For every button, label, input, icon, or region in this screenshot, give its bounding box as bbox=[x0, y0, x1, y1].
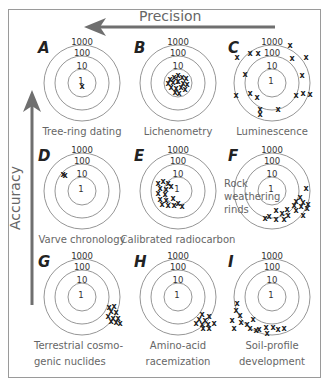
ring-label: 1000 bbox=[167, 145, 189, 155]
ring-label-center: 1 bbox=[268, 76, 273, 86]
ring-label: 100 bbox=[264, 48, 280, 58]
panel-letter: B bbox=[134, 39, 145, 57]
ring-label: 1000 bbox=[167, 251, 189, 261]
panel-caption: development bbox=[239, 356, 305, 367]
ring-label: 10 bbox=[173, 169, 184, 179]
ring-label-center: 1 bbox=[268, 290, 273, 300]
x-mark: x bbox=[273, 215, 279, 224]
x-mark: x bbox=[117, 319, 123, 328]
target-panel-c: 1000100101CxxxxxxxxxxxxxxxxxLuminescence bbox=[228, 37, 313, 137]
x-mark: x bbox=[300, 89, 306, 98]
x-mark: x bbox=[176, 89, 182, 98]
ring-label: 10 bbox=[267, 275, 278, 285]
x-mark: x bbox=[179, 202, 185, 211]
x-mark: x bbox=[247, 89, 253, 98]
x-mark: x bbox=[281, 215, 287, 224]
x-mark: x bbox=[62, 171, 68, 180]
panel-caption: Terrestrial cosmo- bbox=[33, 340, 124, 351]
x-mark: x bbox=[234, 53, 240, 62]
ring-label: 100 bbox=[170, 156, 186, 166]
ring-label: 100 bbox=[74, 156, 90, 166]
x-mark: x bbox=[300, 211, 306, 220]
x-mark: x bbox=[257, 110, 263, 119]
panel-caption: rinds bbox=[224, 204, 249, 215]
panel-letter: E bbox=[134, 147, 145, 165]
x-mark: x bbox=[303, 53, 309, 62]
x-mark: x bbox=[182, 85, 188, 94]
ring-label: 10 bbox=[173, 275, 184, 285]
target-panel-b: 1000100101BxxxxxxxxxxxxxxxxLichenometry bbox=[134, 37, 216, 137]
panel-caption: racemization bbox=[146, 356, 211, 367]
target-panel-g: 1000100101GxxxxxxxxxxTerrestrial cosmo-g… bbox=[33, 251, 124, 367]
ring-label: 100 bbox=[264, 156, 280, 166]
panel-letter: D bbox=[38, 147, 50, 165]
x-mark: x bbox=[281, 324, 287, 333]
x-mark: x bbox=[255, 49, 261, 58]
accuracy-label: Accuracy bbox=[7, 166, 23, 230]
x-mark: x bbox=[242, 70, 248, 79]
x-mark: x bbox=[299, 71, 305, 80]
ring-label: 1000 bbox=[261, 37, 283, 47]
accuracy-arrow-icon bbox=[23, 90, 41, 305]
ring-label: 100 bbox=[74, 262, 90, 272]
x-mark: x bbox=[275, 105, 281, 114]
x-mark: x bbox=[287, 41, 293, 50]
ring-label: 100 bbox=[170, 262, 186, 272]
x-mark: x bbox=[247, 49, 253, 58]
panel-letter: A bbox=[37, 39, 50, 57]
ring-label: 10 bbox=[77, 169, 88, 179]
ring-label: 1000 bbox=[261, 251, 283, 261]
ring-label-center: 1 bbox=[174, 184, 179, 194]
panel-caption: Rock bbox=[224, 178, 248, 189]
x-mark: x bbox=[231, 324, 237, 333]
x-mark: x bbox=[303, 184, 309, 193]
x-mark: x bbox=[307, 90, 313, 99]
ring-label: 10 bbox=[267, 169, 278, 179]
panel-caption: Soil-profile bbox=[245, 340, 298, 351]
target-panel-a: 1000100101AxTree-ring dating bbox=[37, 37, 122, 137]
panel-caption: Amino-acid bbox=[150, 340, 206, 351]
x-mark: x bbox=[250, 315, 256, 324]
panel-letter: F bbox=[228, 147, 239, 165]
panel-letter: G bbox=[38, 253, 50, 271]
x-mark: x bbox=[264, 329, 270, 338]
ring-label-center: 1 bbox=[78, 184, 83, 194]
x-mark: x bbox=[233, 91, 239, 100]
panel-letter: I bbox=[228, 253, 234, 271]
x-mark: x bbox=[256, 325, 262, 334]
ring-label-center: 1 bbox=[174, 290, 179, 300]
x-mark: x bbox=[262, 214, 268, 223]
ring-label: 1000 bbox=[71, 37, 93, 47]
panel-caption: Lichenometry bbox=[144, 126, 213, 137]
x-mark: x bbox=[168, 182, 174, 191]
panel-caption: Calibrated radiocarbon bbox=[121, 234, 236, 245]
target-panel-e: 1000100101ExxxxxxxxxxxxxxxxCalibrated ra… bbox=[121, 145, 236, 245]
panel-caption: Varve chronology bbox=[38, 234, 125, 245]
panel-letter: H bbox=[134, 253, 147, 271]
ring-label: 10 bbox=[77, 61, 88, 71]
target-panel-h: 1000100101HxxxxxxxxxxAmino-acidracemizat… bbox=[134, 251, 217, 367]
target-panel-f: 1000100101FxxxxxxxxxxxxxxxxxxRockweather… bbox=[224, 145, 311, 229]
ring-label: 10 bbox=[77, 275, 88, 285]
x-mark: x bbox=[206, 324, 212, 333]
ring-label-center: 1 bbox=[78, 290, 83, 300]
target-panels: 1000100101AxTree-ring dating1000100101Bx… bbox=[33, 37, 313, 367]
ring-label: 1000 bbox=[167, 37, 189, 47]
ring-label: 10 bbox=[173, 61, 184, 71]
panel-caption: Luminescence bbox=[236, 126, 308, 137]
x-mark: x bbox=[79, 82, 85, 91]
ring-label: 1000 bbox=[261, 145, 283, 155]
ring-label: 100 bbox=[74, 48, 90, 58]
ring-label: 1000 bbox=[71, 145, 93, 155]
panel-caption: genic nuclides bbox=[34, 356, 106, 367]
x-mark: x bbox=[293, 91, 299, 100]
target-panel-d: 1000100101DxxVarve chronology bbox=[38, 145, 126, 245]
x-mark: x bbox=[293, 206, 299, 215]
x-mark: x bbox=[254, 93, 260, 102]
panel-caption: Tree-ring dating bbox=[41, 126, 121, 137]
ring-label: 100 bbox=[264, 262, 280, 272]
ring-label: 100 bbox=[170, 48, 186, 58]
panel-caption: weathering bbox=[224, 191, 280, 202]
target-panel-i: 1000100101IxxxxxxxxxxxxxxxxSoil-profiled… bbox=[228, 251, 310, 367]
x-mark: x bbox=[289, 54, 295, 63]
